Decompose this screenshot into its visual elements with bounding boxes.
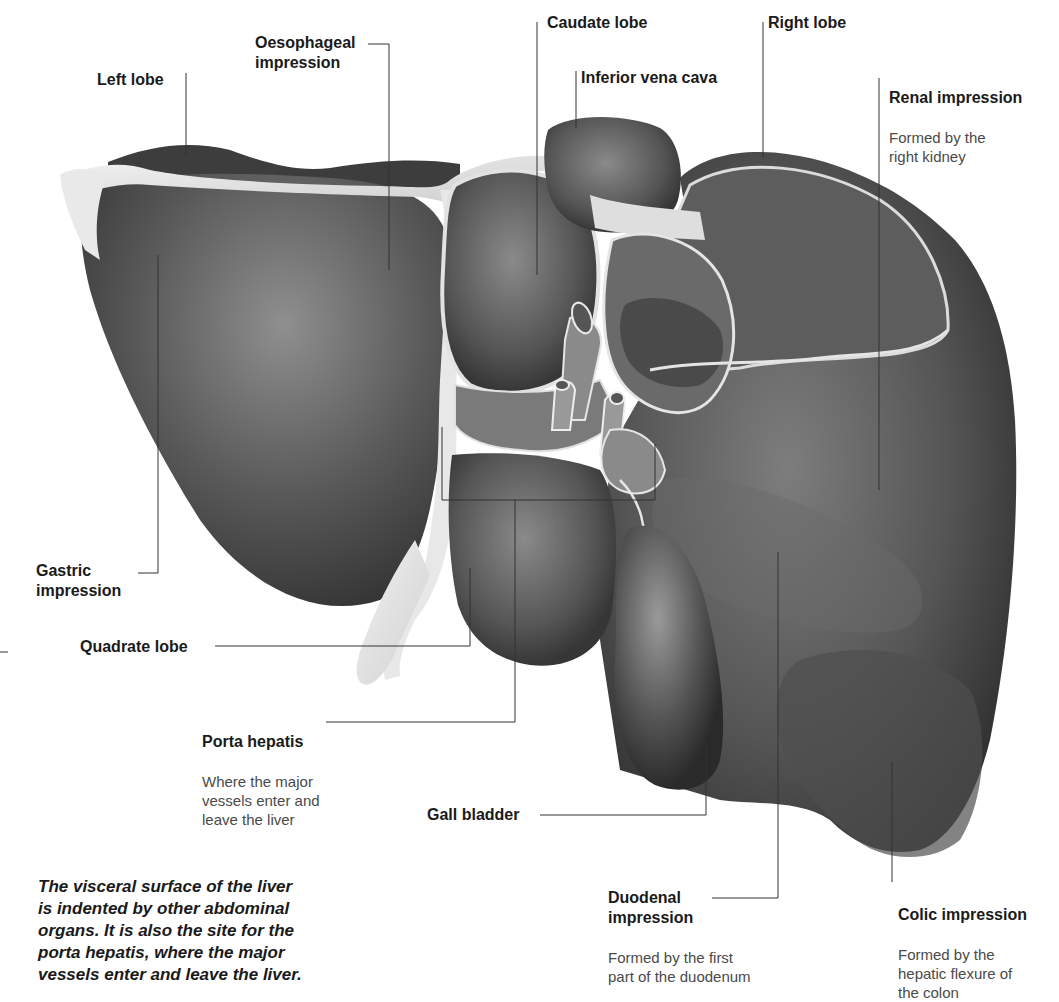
caudate-lobe-title: Caudate lobe — [547, 13, 647, 33]
label-quadrate-lobe: Quadrate lobe — [80, 637, 188, 657]
colic-impression-desc: Formed by the hepatic flexure of the col… — [898, 945, 1027, 1002]
quadrate-lobe-shape — [449, 453, 617, 666]
colic-impression-shape — [777, 650, 982, 857]
label-gall-bladder: Gall bladder — [427, 805, 519, 825]
renal-impression-desc: Formed by the right kidney — [889, 128, 1022, 166]
label-oesophageal-impression: Oesophageal impression — [255, 13, 355, 93]
label-gastric-impression: Gastric impression — [36, 541, 121, 621]
left-lobe-shape — [81, 174, 450, 606]
porta-hepatis-title: Porta hepatis — [202, 732, 320, 752]
inferior-vena-cava-title: Inferior vena cava — [581, 68, 717, 88]
label-renal-impression: Renal impression Formed by the right kid… — [889, 68, 1022, 186]
label-duodenal-impression: Duodenal impression Formed by the first … — [608, 868, 751, 1002]
figure-caption: The visceral surface of the liver is ind… — [38, 876, 398, 986]
label-caudate-lobe: Caudate lobe — [547, 13, 647, 33]
colic-impression-title: Colic impression — [898, 905, 1027, 925]
label-porta-hepatis: Porta hepatis Where the major vessels en… — [202, 712, 320, 849]
gall-bladder-title: Gall bladder — [427, 805, 519, 825]
label-inferior-vena-cava: Inferior vena cava — [581, 68, 717, 88]
oesophageal-impression-title: Oesophageal impression — [255, 33, 355, 73]
quadrate-lobe-title: Quadrate lobe — [80, 637, 188, 657]
porta-hepatis-desc: Where the major vessels enter and leave … — [202, 772, 320, 829]
label-right-lobe: Right lobe — [768, 13, 846, 33]
label-left-lobe: Left lobe — [97, 70, 164, 90]
left-lobe-title: Left lobe — [97, 70, 164, 90]
renal-impression-title: Renal impression — [889, 88, 1022, 108]
duodenal-impression-desc: Formed by the first part of the duodenum — [608, 948, 751, 986]
right-lobe-title: Right lobe — [768, 13, 846, 33]
gastric-impression-title: Gastric impression — [36, 561, 121, 601]
duodenal-impression-title: Duodenal impression — [608, 888, 751, 928]
label-colic-impression: Colic impression Formed by the hepatic f… — [898, 885, 1027, 1002]
